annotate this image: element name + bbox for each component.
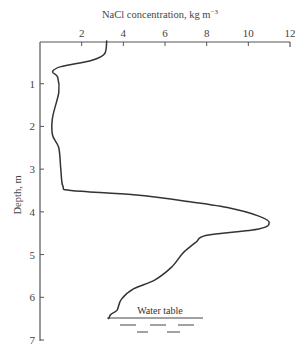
y-tick-label: 2 [30, 120, 36, 132]
y-tick-label: 6 [30, 291, 36, 303]
x-tick-label: 4 [121, 27, 127, 39]
y-tick-label: 4 [30, 206, 36, 218]
x-tick-label: 8 [204, 27, 210, 39]
x-tick-label: 6 [162, 27, 168, 39]
y-tick-label: 5 [30, 249, 36, 261]
water-table-label: Water table [137, 305, 183, 316]
concentration-profile-line [52, 41, 269, 319]
y-tick-label: 3 [30, 163, 36, 175]
x-ticks: 24681012 [79, 27, 296, 46]
y-tick-label: 7 [30, 334, 36, 346]
x-tick-label: 10 [243, 27, 255, 39]
x-tick-label: 12 [285, 27, 296, 39]
y-axis-title: Depth, m [12, 175, 23, 214]
y-ticks: 1234567 [30, 78, 45, 346]
water-table-marker [107, 318, 203, 332]
depth-profile-chart: NaCl concentration, kg m−3 24681012 1234… [0, 0, 298, 357]
x-axis-title: NaCl concentration, kg m−3 [102, 8, 218, 20]
x-tick-label: 2 [79, 27, 85, 39]
y-tick-label: 1 [30, 78, 36, 90]
